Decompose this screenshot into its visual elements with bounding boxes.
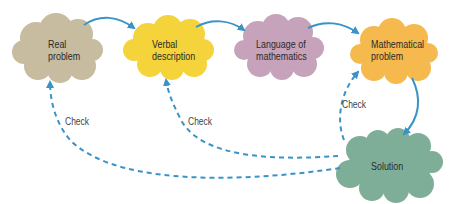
node-verbal-description-label: Verbal description bbox=[152, 38, 195, 62]
arrow-language-to-math bbox=[308, 23, 358, 33]
flow-diagram bbox=[0, 0, 462, 204]
arrow-real-to-verbal bbox=[84, 18, 134, 28]
node-solution-label: Solution bbox=[371, 160, 403, 172]
node-real-problem-label: Real problem bbox=[48, 38, 80, 62]
node-line: problem bbox=[371, 50, 424, 62]
node-line: description bbox=[152, 50, 195, 62]
node-language-of-mathematics-label: Language of mathematics bbox=[256, 38, 307, 62]
node-line: mathematics bbox=[256, 50, 307, 62]
node-line: Mathematical bbox=[371, 38, 424, 50]
check-label-math: Check bbox=[342, 99, 366, 110]
check-arrow-solution-to-real bbox=[50, 82, 340, 178]
node-mathematical-problem-label: Mathematical problem bbox=[371, 38, 424, 62]
node-line: Verbal bbox=[152, 38, 195, 50]
arrow-math-to-solution bbox=[404, 78, 418, 134]
node-line: Language of bbox=[256, 38, 307, 50]
node-line: Solution bbox=[371, 160, 403, 172]
check-label-real: Check bbox=[65, 116, 89, 127]
node-line: problem bbox=[48, 50, 80, 62]
check-label-verbal: Check bbox=[188, 116, 212, 127]
node-line: Real bbox=[48, 38, 80, 50]
